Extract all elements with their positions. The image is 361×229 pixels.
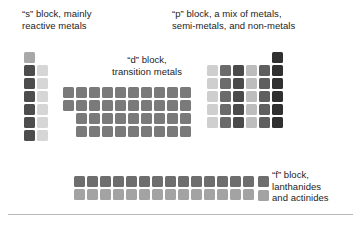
element-cell-p-r3c3 (246, 91, 257, 102)
element-cell-d-r2c9 (180, 113, 191, 124)
element-cell-d-r3c1 (76, 126, 87, 137)
element-cell-p-r2c3 (246, 78, 257, 89)
element-cell-d-r0c4 (115, 87, 126, 98)
element-cell-s-r1c1 (37, 65, 48, 76)
element-cell-p-r2c0 (207, 78, 218, 89)
element-cell-s-r3c0 (24, 91, 35, 102)
element-cell-d-r1c7 (154, 100, 165, 111)
element-cell-f-r1c8 (178, 189, 189, 200)
element-cell-d-r0c2 (89, 87, 100, 98)
element-cell-f-r1c9 (191, 189, 202, 200)
element-cell-p-r4c5 (272, 104, 283, 115)
element-cell-f-r0c12 (230, 176, 241, 187)
element-cell-d-r0c7 (154, 87, 165, 98)
element-cell-p-r1c5 (272, 65, 283, 76)
element-cell-d-r0c3 (102, 87, 113, 98)
element-cell-f-r0c8 (178, 176, 189, 187)
element-cell-d-r3c2 (89, 126, 100, 137)
element-cell-s-r5c1 (37, 117, 48, 128)
element-cell-d-r2c3 (102, 113, 113, 124)
element-cell-d-r1c3 (102, 100, 113, 111)
element-cell-d-r0c8 (167, 87, 178, 98)
element-cell-d-r2c2 (89, 113, 100, 124)
element-cell-d-r3c4 (115, 126, 126, 137)
element-cell-p-r5c0 (207, 117, 218, 128)
element-cell-f-r0c3 (113, 176, 124, 187)
legend-swatch-actinides (258, 190, 269, 201)
element-cell-p-r2c5 (272, 78, 283, 89)
element-cell-p-r0c5 (272, 52, 283, 63)
element-cell-d-r0c5 (128, 87, 139, 98)
element-cell-s-r1c0 (24, 65, 35, 76)
element-cell-f-r1c11 (217, 189, 228, 200)
element-cell-p-r5c4 (259, 117, 270, 128)
element-cell-f-r1c13 (243, 189, 254, 200)
element-cell-d-r1c1 (76, 100, 87, 111)
element-cell-d-r0c1 (76, 87, 87, 98)
element-cell-f-r1c1 (87, 189, 98, 200)
element-cell-d-r2c5 (128, 113, 139, 124)
element-cell-f-r0c0 (74, 176, 85, 187)
periodic-table-blocks-grid (0, 0, 361, 229)
element-cell-f-r0c6 (152, 176, 163, 187)
element-cell-f-r1c6 (152, 189, 163, 200)
element-cell-f-r1c2 (100, 189, 111, 200)
element-cell-p-r1c4 (259, 65, 270, 76)
element-cell-p-r5c1 (220, 117, 231, 128)
element-cell-f-r1c0 (74, 189, 85, 200)
element-cell-d-r1c2 (89, 100, 100, 111)
element-cell-f-r1c10 (204, 189, 215, 200)
element-cell-s-r0c0 (24, 52, 35, 63)
element-cell-p-r5c3 (246, 117, 257, 128)
element-cell-d-r3c6 (141, 126, 152, 137)
element-cell-d-r3c3 (102, 126, 113, 137)
element-cell-s-r6c1 (37, 130, 48, 141)
element-cell-s-r2c1 (37, 78, 48, 89)
element-cell-d-r1c9 (180, 100, 191, 111)
element-cell-f-r1c4 (126, 189, 137, 200)
element-cell-d-r3c7 (154, 126, 165, 137)
element-cell-f-r1c12 (230, 189, 241, 200)
element-cell-p-r5c5 (272, 117, 283, 128)
element-cell-f-r1c5 (139, 189, 150, 200)
element-cell-s-r4c1 (37, 104, 48, 115)
element-cell-d-r2c8 (167, 113, 178, 124)
element-cell-p-r3c2 (233, 91, 244, 102)
element-cell-d-r1c6 (141, 100, 152, 111)
element-cell-d-r1c8 (167, 100, 178, 111)
element-cell-p-r1c2 (233, 65, 244, 76)
element-cell-p-r2c4 (259, 78, 270, 89)
legend-swatch-lanthanides (258, 176, 269, 187)
element-cell-f-r0c11 (217, 176, 228, 187)
element-cell-p-r1c0 (207, 65, 218, 76)
horizontal-divider (8, 214, 353, 215)
element-cell-d-r1c4 (115, 100, 126, 111)
element-cell-f-r1c3 (113, 189, 124, 200)
element-cell-p-r4c4 (259, 104, 270, 115)
element-cell-f-r1c7 (165, 189, 176, 200)
element-cell-s-r6c0 (24, 130, 35, 141)
element-cell-f-r0c7 (165, 176, 176, 187)
element-cell-f-r0c4 (126, 176, 137, 187)
element-cell-d-r2c1 (76, 113, 87, 124)
element-cell-p-r3c5 (272, 91, 283, 102)
element-cell-f-r0c13 (243, 176, 254, 187)
element-cell-d-r0c6 (141, 87, 152, 98)
element-cell-p-r4c2 (233, 104, 244, 115)
element-cell-s-r3c1 (37, 91, 48, 102)
element-cell-f-r0c5 (139, 176, 150, 187)
element-cell-p-r4c1 (220, 104, 231, 115)
element-cell-d-r1c5 (128, 100, 139, 111)
element-cell-p-r5c2 (233, 117, 244, 128)
element-cell-d-r2c7 (154, 113, 165, 124)
element-cell-f-r0c1 (87, 176, 98, 187)
element-cell-d-r0c0 (63, 87, 74, 98)
element-cell-d-r3c8 (167, 126, 178, 137)
element-cell-d-r3c5 (128, 126, 139, 137)
element-cell-p-r4c3 (246, 104, 257, 115)
element-cell-p-r3c1 (220, 91, 231, 102)
element-cell-s-r5c0 (24, 117, 35, 128)
element-cell-f-r0c10 (204, 176, 215, 187)
element-cell-p-r2c2 (233, 78, 244, 89)
element-cell-p-r3c0 (207, 91, 218, 102)
